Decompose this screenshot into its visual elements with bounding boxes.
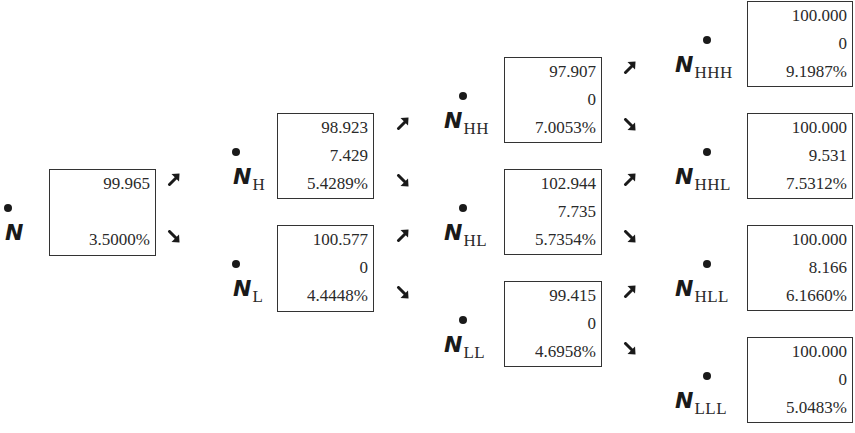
arrow-down-right-icon xyxy=(623,342,637,356)
price-value: 100.577 xyxy=(283,226,368,254)
price-value: 98.923 xyxy=(283,114,368,142)
coupon-value: 9.531 xyxy=(753,142,847,170)
arrow-down-right-icon xyxy=(167,230,181,244)
price-value: 97.907 xyxy=(510,58,596,86)
node-value-box: 97.907 0 7.0053% xyxy=(504,57,602,143)
coupon-value: 0 xyxy=(753,30,847,58)
price-value: 100.000 xyxy=(753,226,847,254)
node-dot-icon xyxy=(703,372,711,380)
rate-value: 9.1987% xyxy=(753,58,847,86)
node-label: NLLL xyxy=(675,388,727,413)
arrow-down-right-icon xyxy=(396,174,410,188)
coupon-value: 7.429 xyxy=(283,142,368,170)
coupon-value: 0 xyxy=(753,366,847,394)
node-value-box: 100.577 0 4.4448% xyxy=(277,225,374,312)
node-dot-icon xyxy=(703,148,711,156)
node-label: NL xyxy=(233,276,263,301)
arrow-down-right-icon xyxy=(623,230,637,244)
rate-value: 6.1660% xyxy=(753,282,847,310)
node-label: NHHH xyxy=(675,52,733,77)
arrow-up-right-icon xyxy=(623,172,637,186)
rate-value: 7.5312% xyxy=(753,170,847,198)
node-label: NHL xyxy=(444,220,487,245)
rate-value: 5.0483% xyxy=(753,394,847,422)
coupon-value: 7.735 xyxy=(510,198,596,226)
price-value: 99.965 xyxy=(55,170,150,198)
rate-value: 5.4289% xyxy=(283,170,368,198)
arrow-up-right-icon xyxy=(396,116,410,130)
node-label: N xyxy=(5,220,24,245)
node-label: NHH xyxy=(444,108,489,133)
arrow-down-right-icon xyxy=(396,286,410,300)
coupon-value: 0 xyxy=(510,310,596,338)
node-value-box: 99.965 3.5000% xyxy=(49,169,156,256)
coupon-value xyxy=(55,198,150,226)
price-value: 99.415 xyxy=(510,282,596,310)
rate-value: 3.5000% xyxy=(55,226,150,254)
node-dot-icon xyxy=(703,260,711,268)
coupon-value: 0 xyxy=(510,86,596,114)
price-value: 100.000 xyxy=(753,338,847,366)
price-value: 102.944 xyxy=(510,170,596,198)
rate-value: 7.0053% xyxy=(510,114,596,142)
node-dot-icon xyxy=(703,36,711,44)
node-value-box: 102.944 7.735 5.7354% xyxy=(504,169,602,255)
node-value-box: 100.000 0 9.1987% xyxy=(747,1,853,87)
node-dot-icon xyxy=(4,204,12,212)
coupon-value: 8.166 xyxy=(753,254,847,282)
node-value-box: 99.415 0 4.6958% xyxy=(504,281,602,367)
node-label: NHLL xyxy=(675,276,729,301)
node-dot-icon xyxy=(232,148,240,156)
rate-value: 4.6958% xyxy=(510,338,596,366)
node-dot-icon xyxy=(459,204,467,212)
node-label: NH xyxy=(233,164,265,189)
arrow-up-right-icon xyxy=(623,60,637,74)
price-value: 100.000 xyxy=(753,114,847,142)
arrow-down-right-icon xyxy=(623,118,637,132)
node-dot-icon xyxy=(459,92,467,100)
rate-value: 4.4448% xyxy=(283,282,368,310)
node-value-box: 100.000 9.531 7.5312% xyxy=(747,113,853,199)
node-label: NLL xyxy=(444,332,485,357)
node-value-box: 100.000 8.166 6.1660% xyxy=(747,225,853,311)
arrow-up-right-icon xyxy=(167,172,181,186)
node-label: NHHL xyxy=(675,164,731,189)
node-dot-icon xyxy=(232,260,240,268)
node-dot-icon xyxy=(459,316,467,324)
node-value-box: 100.000 0 5.0483% xyxy=(747,337,853,423)
price-value: 100.000 xyxy=(753,2,847,30)
node-value-box: 98.923 7.429 5.4289% xyxy=(277,113,374,199)
arrow-up-right-icon xyxy=(396,228,410,242)
rate-value: 5.7354% xyxy=(510,226,596,254)
arrow-up-right-icon xyxy=(623,284,637,298)
coupon-value: 0 xyxy=(283,254,368,282)
